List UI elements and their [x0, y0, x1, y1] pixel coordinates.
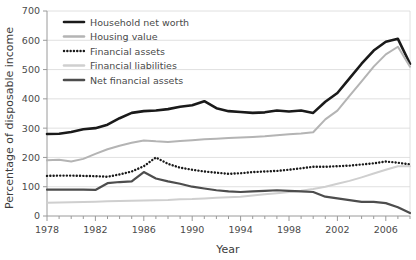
legend-label: Financial liabilities	[90, 60, 177, 71]
x-tick-label: 1998	[277, 224, 301, 235]
y-tick-label: 500	[22, 64, 40, 75]
chart-container: 0100200300400500600700 19781982198619901…	[0, 0, 416, 260]
series-line	[47, 157, 410, 176]
y-tick-label: 600	[22, 35, 40, 46]
series-line	[47, 166, 410, 203]
x-tick-label: 1982	[83, 224, 107, 235]
x-tick-label: 1990	[180, 224, 204, 235]
legend-label: Net financial assets	[90, 75, 183, 86]
y-tick-label: 300	[22, 123, 40, 134]
x-tick-label: 2006	[374, 224, 398, 235]
y-tick-label: 100	[22, 181, 40, 192]
y-axis-title: Percentage of disposable income	[3, 27, 16, 209]
y-axis-ticks: 0100200300400500600700	[22, 5, 47, 221]
x-axis-ticks: 19781982198619901994199820022006	[35, 216, 410, 235]
x-axis-title: Year	[215, 243, 240, 256]
legend-label: Household net worth	[90, 17, 189, 28]
x-tick-label: 1986	[132, 224, 156, 235]
y-tick-label: 0	[34, 210, 40, 221]
y-tick-label: 700	[22, 5, 40, 16]
legend-label: Housing value	[90, 31, 158, 42]
line-chart: 0100200300400500600700 19781982198619901…	[0, 0, 416, 260]
legend-label: Financial assets	[90, 46, 165, 57]
x-tick-label: 1994	[229, 224, 253, 235]
x-tick-label: 1978	[35, 224, 59, 235]
y-tick-label: 200	[22, 152, 40, 163]
x-tick-label: 2002	[325, 224, 349, 235]
chart-legend: Household net worthHousing valueFinancia…	[64, 17, 189, 86]
y-tick-label: 400	[22, 93, 40, 104]
